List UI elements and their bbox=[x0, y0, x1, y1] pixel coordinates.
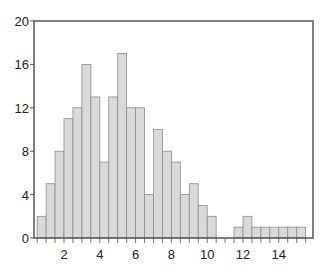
histogram-bar bbox=[270, 227, 279, 238]
histogram-bar bbox=[154, 130, 163, 239]
y-tick-label: 12 bbox=[15, 101, 29, 116]
histogram-bar bbox=[171, 162, 180, 238]
y-tick-label: 4 bbox=[22, 188, 29, 203]
x-tick-label: 6 bbox=[132, 247, 139, 262]
y-tick-label: 8 bbox=[22, 144, 29, 159]
x-tick-label: 8 bbox=[168, 247, 175, 262]
histogram-bar bbox=[37, 216, 46, 238]
histogram-bar bbox=[46, 184, 55, 238]
histogram-bar bbox=[91, 97, 100, 238]
x-axis: 2468101214 bbox=[37, 238, 306, 262]
histogram-bars bbox=[37, 54, 306, 238]
x-tick-label: 12 bbox=[236, 247, 250, 262]
histogram-chart: 048121620 2468101214 bbox=[0, 0, 329, 277]
histogram-bar bbox=[297, 227, 306, 238]
y-tick-label: 0 bbox=[22, 231, 29, 246]
y-axis: 048121620 bbox=[15, 14, 34, 246]
histogram-bar bbox=[207, 216, 216, 238]
histogram-bar bbox=[127, 108, 136, 238]
x-tick-label: 4 bbox=[96, 247, 103, 262]
x-tick-label: 10 bbox=[200, 247, 214, 262]
histogram-bar bbox=[145, 195, 154, 238]
histogram-bar bbox=[73, 108, 82, 238]
y-tick-label: 16 bbox=[15, 57, 29, 72]
x-tick-label: 14 bbox=[272, 247, 286, 262]
histogram-bar bbox=[82, 64, 91, 238]
y-tick-label: 20 bbox=[15, 14, 29, 29]
histogram-bar bbox=[189, 184, 198, 238]
histogram-bar bbox=[279, 227, 288, 238]
histogram-bar bbox=[243, 216, 252, 238]
histogram-bar bbox=[162, 151, 171, 238]
histogram-bar bbox=[109, 97, 118, 238]
histogram-bar bbox=[64, 119, 73, 238]
histogram-bar bbox=[118, 54, 127, 238]
histogram-bar bbox=[288, 227, 297, 238]
histogram-bar bbox=[100, 162, 109, 238]
x-tick-label: 2 bbox=[60, 247, 67, 262]
histogram-bar bbox=[180, 195, 189, 238]
histogram-bar bbox=[198, 205, 207, 238]
histogram-bar bbox=[261, 227, 270, 238]
histogram-bar bbox=[234, 227, 243, 238]
histogram-bar bbox=[136, 108, 145, 238]
histogram-bar bbox=[252, 227, 261, 238]
histogram-bar bbox=[55, 151, 64, 238]
